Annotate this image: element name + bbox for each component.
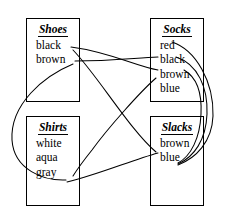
node-shirts-item-0[interactable]: white: [36, 136, 79, 150]
node-socks-item-3[interactable]: blue: [160, 81, 203, 95]
node-shirts-items: white aqua gray: [27, 136, 79, 179]
node-socks-item-2[interactable]: brown: [160, 67, 203, 81]
edge-socks-blue-shirts-aqua: [73, 78, 156, 176]
node-shoes[interactable]: Shoes black brown: [26, 18, 80, 102]
node-slacks-title: Slacks: [161, 121, 194, 135]
node-shoes-item-0[interactable]: black: [36, 38, 79, 52]
node-slacks-item-1[interactable]: blue: [160, 150, 203, 164]
node-shoes-title: Shoes: [38, 23, 68, 37]
node-socks-title: Socks: [162, 23, 191, 37]
node-slacks[interactable]: Slacks brown blue: [150, 116, 204, 206]
clothing-compatibility-diagram: Shoes black brown Socks red black brown …: [0, 0, 236, 213]
edge-shirts-gray-slacks-brown: [67, 153, 158, 182]
edge-shoes-black-socks-brown: [71, 47, 158, 70]
node-socks-item-1[interactable]: black: [160, 52, 203, 66]
node-shirts-item-1[interactable]: aqua: [36, 150, 79, 164]
node-slacks-items: brown blue: [151, 136, 203, 165]
node-shirts-title: Shirts: [38, 121, 68, 135]
node-slacks-item-0[interactable]: brown: [160, 136, 203, 150]
node-socks[interactable]: Socks red black brown blue: [150, 18, 204, 102]
edge-shoes-brown-socks-black: [75, 57, 158, 61]
edge-shoes-black-slacks-brown: [73, 50, 156, 152]
node-socks-items: red black brown blue: [151, 38, 203, 95]
node-socks-item-0[interactable]: red: [160, 38, 203, 52]
node-shoes-item-1[interactable]: brown: [36, 52, 79, 66]
node-shirts-item-2[interactable]: gray: [36, 165, 79, 179]
node-shoes-items: black brown: [27, 38, 79, 67]
node-shirts[interactable]: Shirts white aqua gray: [26, 116, 80, 206]
